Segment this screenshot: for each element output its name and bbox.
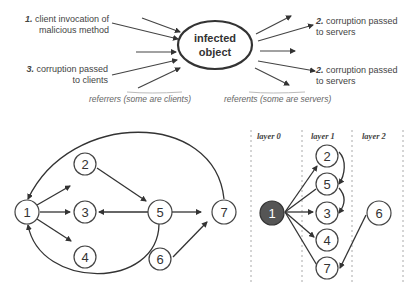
label-corruption-to-clients: 3. corruption passed to clients	[0, 64, 108, 86]
svg-text:7: 7	[323, 261, 330, 276]
caption-referents: referents (some are servers)	[224, 94, 331, 104]
svg-text:6: 6	[156, 252, 163, 267]
svg-text:4: 4	[323, 233, 330, 248]
layer-0-header: layer 0	[257, 131, 281, 141]
label-client-invocation: 1. client invocation of malicious method	[0, 14, 109, 36]
layered-graph: 1 2 5 3 4 7 6	[251, 130, 403, 285]
svg-text:2: 2	[323, 149, 330, 164]
label-corruption-to-servers-2: 2. corruption passed to servers	[316, 65, 398, 87]
svg-text:5: 5	[156, 205, 163, 220]
layer-1-header: layer 1	[311, 131, 335, 141]
svg-text:6: 6	[375, 206, 382, 221]
caption-referrers: referrers (some are clients)	[89, 94, 191, 104]
svg-text:2: 2	[81, 157, 88, 172]
object-graph: 1 2 3 4 5 6 7	[15, 132, 236, 273]
svg-text:7: 7	[220, 205, 227, 220]
label-corruption-to-servers-1: 2. corruption passed to servers	[316, 16, 398, 38]
infected-object-label: infectedobject	[177, 20, 253, 70]
svg-text:4: 4	[81, 250, 88, 265]
layer-2-header: layer 2	[362, 131, 386, 141]
svg-text:5: 5	[323, 177, 330, 192]
svg-text:3: 3	[81, 205, 88, 220]
svg-text:3: 3	[323, 206, 330, 221]
svg-text:1: 1	[268, 206, 275, 221]
svg-text:1: 1	[23, 205, 30, 220]
